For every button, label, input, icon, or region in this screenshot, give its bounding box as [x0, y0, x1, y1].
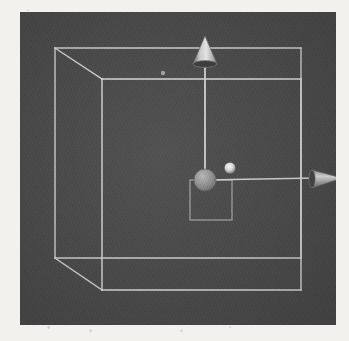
faint-vertex-dot	[161, 71, 165, 75]
scene-markers	[161, 71, 236, 174]
3d-viewport[interactable]: Y X	[20, 12, 336, 325]
selection-bounding-box[interactable]	[55, 48, 301, 290]
x-axis-cone-base	[309, 170, 315, 188]
transform-gizmo[interactable]	[190, 36, 336, 220]
screenshot-root: Y X	[0, 0, 349, 341]
bbox-depth-edge-top-left	[55, 48, 102, 79]
highlight-vertex-dot[interactable]	[225, 163, 236, 174]
bbox-depth-edges	[55, 48, 102, 290]
bbox-depth-edge-bottom-left	[55, 258, 102, 290]
scene-canvas[interactable]: Y X	[20, 12, 336, 325]
x-axis-shaft[interactable]	[205, 178, 316, 180]
x-axis-arrow-cone[interactable]	[312, 170, 336, 188]
y-axis-cone-base	[193, 61, 217, 68]
origin-sphere-handle[interactable]	[194, 169, 216, 191]
